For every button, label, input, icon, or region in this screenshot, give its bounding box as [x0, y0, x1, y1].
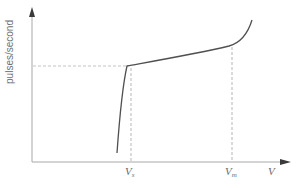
vs-subscript: s [132, 171, 135, 179]
vm-tick-label: Vm [225, 165, 237, 179]
x-axis-label: V [268, 165, 275, 177]
vs-symbol: V [125, 165, 132, 177]
counting-rate-diagram: pulses/second Vs Vm V [0, 0, 302, 188]
vm-subscript: m [232, 171, 237, 179]
vs-tick-label: Vs [125, 165, 134, 179]
y-axis-arrow-icon [29, 7, 35, 17]
plot-canvas [0, 0, 302, 188]
x-axis-arrow-icon [280, 159, 291, 165]
y-axis-label: pulses/second [3, 12, 17, 92]
vm-symbol: V [225, 165, 232, 177]
